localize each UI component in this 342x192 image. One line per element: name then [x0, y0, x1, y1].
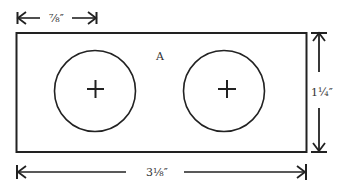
hole-offset-dimension: ⅞″ — [18, 12, 97, 25]
width-label: 3⅛″ — [146, 166, 168, 179]
technical-drawing: A ⅞″ 1¼″ 3⅛″ — [0, 0, 342, 192]
right-hole-circle — [184, 51, 265, 132]
plate-label: A — [155, 50, 165, 63]
width-dimension: 3⅛″ — [17, 164, 306, 180]
height-dimension: 1¼″ — [311, 33, 333, 152]
right-hole — [184, 51, 265, 132]
left-hole — [55, 51, 136, 132]
hole-offset-label: ⅞″ — [49, 12, 64, 25]
height-label: 1¼″ — [311, 86, 333, 99]
